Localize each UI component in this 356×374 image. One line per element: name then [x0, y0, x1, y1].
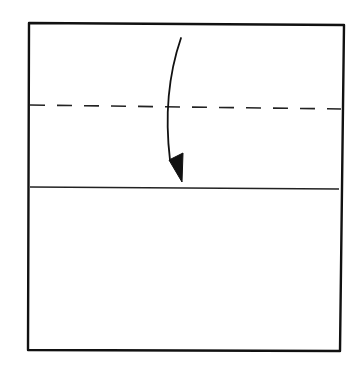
origami-diagram — [0, 0, 356, 374]
